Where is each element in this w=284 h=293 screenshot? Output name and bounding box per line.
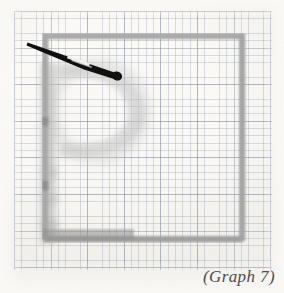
figure-scene: (Graph 7) (0, 0, 284, 293)
graph-paper-grid (14, 11, 272, 270)
figure-caption: (Graph 7) (203, 267, 275, 287)
